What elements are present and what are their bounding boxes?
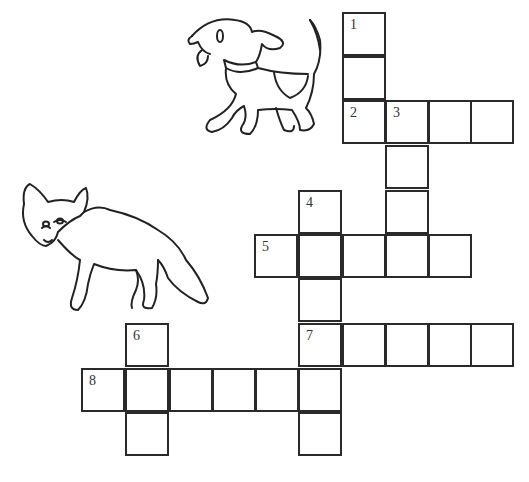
clue-number: 8 [89,374,96,388]
crossword-cell[interactable] [342,323,386,367]
crossword-cell[interactable] [255,368,299,412]
crossword-cell[interactable] [428,100,472,144]
crossword-cell[interactable]: 2 [342,100,386,144]
crossword-cell[interactable] [385,323,429,367]
clue-number: 6 [133,329,140,343]
clue-number: 5 [262,240,269,254]
crossword-cell[interactable] [428,234,472,278]
crossword-cell[interactable] [470,323,514,367]
clue-number: 4 [306,196,313,210]
clue-number: 1 [350,18,357,32]
crossword-cell[interactable] [298,278,342,322]
crossword-cell[interactable] [169,368,213,412]
crossword-cell[interactable] [298,234,342,278]
crossword-cell[interactable] [428,323,472,367]
crossword-cell[interactable]: 1 [342,12,386,56]
crossword-cell[interactable] [298,412,342,456]
clue-number: 3 [393,106,400,120]
clue-number: 7 [306,329,313,343]
dog-icon [180,14,340,144]
crossword-cell[interactable] [385,145,429,189]
crossword-cell[interactable] [125,368,169,412]
crossword-cell[interactable] [470,100,514,144]
crossword-cell[interactable]: 4 [298,190,342,234]
crossword-cell[interactable]: 3 [385,100,429,144]
crossword-cell[interactable] [298,368,342,412]
crossword-cell[interactable] [212,368,256,412]
crossword-cell[interactable] [125,412,169,456]
crossword-cell[interactable] [342,56,386,100]
crossword-cell[interactable]: 5 [254,234,298,278]
crossword-cell[interactable]: 6 [125,323,169,367]
fox-icon [18,180,218,320]
crossword-cell[interactable]: 7 [298,323,342,367]
crossword-cell[interactable] [385,190,429,234]
crossword-cell[interactable] [342,234,386,278]
crossword-cell[interactable]: 8 [81,368,125,412]
crossword-cell[interactable] [385,234,429,278]
clue-number: 2 [350,106,357,120]
